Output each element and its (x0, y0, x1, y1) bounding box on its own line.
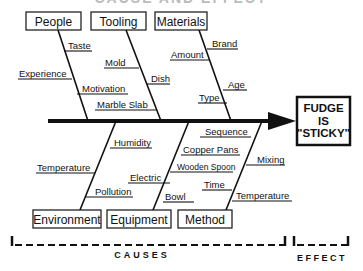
arrowhead-icon (268, 112, 296, 130)
svg-text:IS: IS (318, 115, 329, 127)
svg-text:Materials: Materials (157, 15, 206, 29)
cause-type: Type (199, 92, 220, 103)
cause-mold: Mold (105, 57, 126, 68)
cause-wooden-spoon: Wooden Spoon (177, 162, 236, 172)
svg-text:CAUSE AND EFFECT: CAUSE AND EFFECT (94, 0, 267, 6)
svg-text:Method: Method (185, 213, 225, 227)
svg-text:FUDGE: FUDGE (303, 102, 344, 114)
cause-age: Age (228, 79, 245, 90)
svg-text:CAUSES: CAUSES (114, 250, 170, 260)
cause-amount: Amount (171, 49, 204, 60)
cause-marble-slab: Marble Slab (97, 99, 148, 110)
fishbone-diagram: CAUSE AND EFFECT FUDGE IS "STICKY" Peopl… (0, 0, 363, 271)
cause-bowl: Bowl (165, 191, 186, 202)
cause-motivation: Motivation (82, 83, 125, 94)
cause-taste: Taste (68, 40, 91, 51)
svg-text:Tooling: Tooling (99, 15, 137, 29)
cause-temperature-env: Temperature (37, 162, 90, 173)
cause-humidity: Humidity (114, 137, 151, 148)
cause-pollution: Pollution (95, 186, 131, 197)
svg-text:"STICKY": "STICKY" (297, 127, 350, 139)
cause-time: Time (204, 179, 225, 190)
svg-text:Equipment: Equipment (110, 213, 168, 227)
causes-bracket: CAUSES (12, 236, 285, 260)
cause-brand: Brand (212, 38, 237, 49)
diagram-title: CAUSE AND EFFECT (94, 0, 267, 6)
cause-mixing: Mixing (257, 154, 284, 165)
cause-electric: Electric (130, 172, 161, 183)
category-materials: Materials Brand Amount Age Type (155, 12, 247, 121)
category-method: Method Sequence Mixing Time Temperature (178, 121, 292, 228)
cause-sequence: Sequence (205, 126, 248, 137)
svg-text:Environment: Environment (33, 213, 101, 227)
effect-bracket: EFFECT (294, 236, 348, 263)
cause-copper-pans: Copper Pans (183, 144, 239, 155)
svg-text:EFFECT: EFFECT (297, 253, 347, 263)
cause-temperature-method: Temperature (236, 190, 289, 201)
cause-experience: Experience (19, 68, 67, 79)
svg-text:People: People (35, 15, 73, 29)
cause-dish: Dish (151, 73, 170, 84)
effect-box: FUDGE IS "STICKY" (297, 97, 350, 145)
